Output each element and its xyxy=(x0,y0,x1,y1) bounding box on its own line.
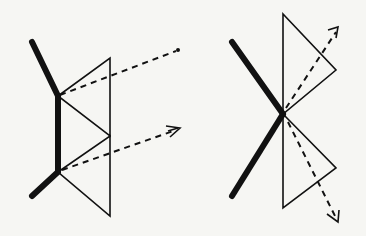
diagram-canvas xyxy=(0,0,366,236)
left-lower-ray-arrowhead-icon xyxy=(166,126,180,137)
right-upper-triangle xyxy=(283,14,336,114)
left-thick-mirror xyxy=(32,42,58,196)
left-upper-ray-dot xyxy=(176,48,180,52)
left-lower-ray xyxy=(62,130,176,170)
right-thick-mirror-upper xyxy=(232,42,283,114)
right-lower-triangle xyxy=(283,114,336,208)
optics-diagram xyxy=(0,0,366,236)
right-upper-ray-arrowhead-icon xyxy=(328,27,338,38)
left-lower-triangle xyxy=(58,136,110,216)
right-figure xyxy=(232,14,339,222)
left-upper-ray xyxy=(60,51,176,95)
left-figure xyxy=(32,42,180,216)
right-lower-ray xyxy=(288,122,336,218)
right-thick-mirror-lower xyxy=(232,114,283,196)
left-upper-triangle xyxy=(58,58,110,136)
